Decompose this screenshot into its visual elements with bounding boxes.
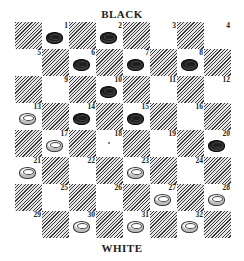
black-checker-icon[interactable] <box>46 32 63 44</box>
black-checker-icon[interactable] <box>100 86 117 98</box>
white-checker-icon[interactable] <box>181 221 198 233</box>
square-number: 4 <box>226 22 230 30</box>
hatched-square <box>42 49 69 76</box>
square-5[interactable]: 5 <box>15 49 42 76</box>
hatched-square <box>177 76 204 103</box>
hatched-square <box>15 130 42 157</box>
hatched-square <box>15 76 42 103</box>
square-number: 15 <box>142 103 150 111</box>
square-31[interactable]: 31 <box>123 211 150 238</box>
square-32[interactable]: 32 <box>177 211 204 238</box>
square-16[interactable]: 16 <box>177 103 204 130</box>
hatched-square <box>15 22 42 49</box>
white-checker-icon[interactable] <box>19 167 36 179</box>
hatched-square <box>177 130 204 157</box>
square-6[interactable]: 6 <box>69 49 96 76</box>
black-checker-icon[interactable] <box>127 59 144 71</box>
white-checker-icon[interactable] <box>154 194 171 206</box>
square-number: 5 <box>37 49 41 57</box>
black-checker-icon[interactable] <box>73 59 90 71</box>
square-number: 17 <box>61 130 69 138</box>
white-checker-icon[interactable] <box>19 113 36 125</box>
square-8[interactable]: 8 <box>177 49 204 76</box>
square-14[interactable]: 14 <box>69 103 96 130</box>
square-9[interactable]: 9 <box>42 76 69 103</box>
square-30[interactable]: 30 <box>69 211 96 238</box>
square-number: 29 <box>34 211 42 219</box>
hatched-square <box>96 103 123 130</box>
checkers-board: 1234567891011121314151617181920212223242… <box>15 22 231 238</box>
square-19[interactable]: 19 <box>150 130 177 157</box>
hatched-square <box>123 184 150 211</box>
square-20[interactable]: 20 <box>204 130 231 157</box>
square-7[interactable]: 7 <box>123 49 150 76</box>
white-checker-icon[interactable] <box>73 221 90 233</box>
black-checker-icon[interactable] <box>127 113 144 125</box>
white-checker-icon[interactable] <box>46 140 63 152</box>
square-25[interactable]: 25 <box>42 184 69 211</box>
black-checker-icon[interactable] <box>181 59 198 71</box>
square-number: 20 <box>223 130 231 138</box>
square-number: 23 <box>142 157 150 165</box>
white-checker-icon[interactable] <box>208 194 225 206</box>
square-23[interactable]: 23 <box>123 157 150 184</box>
hatched-square <box>96 157 123 184</box>
square-10[interactable]: 10 <box>96 76 123 103</box>
square-28[interactable]: 28 <box>204 184 231 211</box>
square-2[interactable]: 2 <box>96 22 123 49</box>
black-checker-icon[interactable] <box>73 113 90 125</box>
hatched-square <box>96 211 123 238</box>
square-number: 25 <box>61 184 69 192</box>
square-number: 8 <box>199 49 203 57</box>
square-number: 24 <box>196 157 204 165</box>
square-26[interactable]: 26 <box>96 184 123 211</box>
black-checker-icon[interactable] <box>208 140 225 152</box>
hatched-square <box>150 49 177 76</box>
square-24[interactable]: 24 <box>177 157 204 184</box>
hatched-square <box>204 157 231 184</box>
hatched-square <box>123 76 150 103</box>
square-13[interactable]: 13 <box>15 103 42 130</box>
hatched-square <box>69 130 96 157</box>
hatched-square <box>204 211 231 238</box>
square-18[interactable]: 18 <box>96 130 123 157</box>
white-side-label: WHITE <box>0 242 244 254</box>
square-15[interactable]: 15 <box>123 103 150 130</box>
black-checker-icon[interactable] <box>100 32 117 44</box>
square-21[interactable]: 21 <box>15 157 42 184</box>
square-number: 12 <box>223 76 231 84</box>
square-22[interactable]: 22 <box>69 157 96 184</box>
white-checker-icon[interactable] <box>127 221 144 233</box>
square-number: 27 <box>169 184 177 192</box>
hatched-square <box>15 184 42 211</box>
hatched-square <box>96 49 123 76</box>
square-17[interactable]: 17 <box>42 130 69 157</box>
square-3[interactable]: 3 <box>150 22 177 49</box>
hatched-square <box>42 211 69 238</box>
hatched-square <box>204 49 231 76</box>
square-number: 21 <box>34 157 42 165</box>
square-number: 6 <box>91 49 95 57</box>
white-checker-icon[interactable] <box>127 167 144 179</box>
square-27[interactable]: 27 <box>150 184 177 211</box>
square-4[interactable]: 4 <box>204 22 231 49</box>
square-number: 1 <box>64 22 68 30</box>
hatched-square <box>123 130 150 157</box>
square-number: 14 <box>88 103 96 111</box>
hatched-square <box>69 184 96 211</box>
square-12[interactable]: 12 <box>204 76 231 103</box>
square-11[interactable]: 11 <box>150 76 177 103</box>
hatched-square <box>150 211 177 238</box>
square-29[interactable]: 29 <box>15 211 42 238</box>
hatched-square <box>150 103 177 130</box>
square-number: 19 <box>169 130 177 138</box>
square-number: 2 <box>118 22 122 30</box>
square-number: 9 <box>64 76 68 84</box>
hatched-square <box>177 184 204 211</box>
hatched-square <box>42 103 69 130</box>
square-number: 13 <box>34 103 42 111</box>
square-number: 16 <box>196 103 204 111</box>
square-1[interactable]: 1 <box>42 22 69 49</box>
square-number: 22 <box>88 157 96 165</box>
hatched-square <box>177 22 204 49</box>
